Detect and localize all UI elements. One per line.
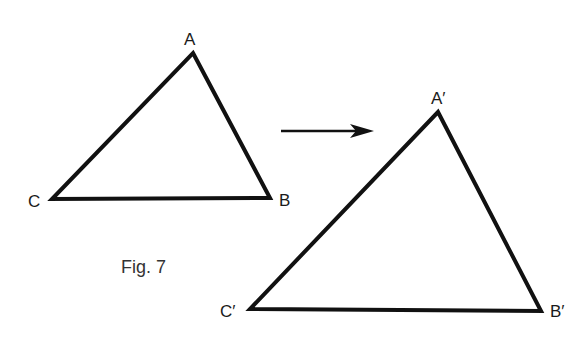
- vertex-label-a-prime: A′: [431, 90, 446, 107]
- vertex-label-a: A: [184, 31, 195, 48]
- triangle-abc: [52, 53, 270, 199]
- vertex-label-b: B: [279, 192, 290, 209]
- arrow-right-icon: [281, 124, 374, 138]
- vertex-label-c: C: [28, 193, 40, 210]
- figure-caption: Fig. 7: [121, 258, 166, 276]
- triangle-a-prime-b-prime-c-prime: [250, 112, 541, 311]
- vertex-label-c-prime: C′: [220, 303, 235, 320]
- diagram-canvas: [0, 0, 584, 342]
- vertex-label-b-prime: B′: [550, 303, 565, 320]
